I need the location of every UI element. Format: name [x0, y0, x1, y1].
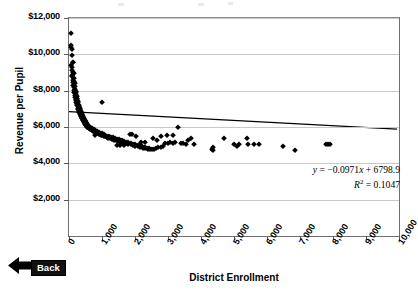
x-axis-tick-label: 2,000 — [132, 222, 152, 246]
x-axis-title: District Enrollment — [68, 272, 400, 283]
x-axis-tick-label: 8,000 — [330, 222, 350, 246]
regression-equation: y = −0.0971x + 6798.9 — [313, 163, 400, 176]
x-axis-tick-label: 10,000 — [396, 218, 418, 247]
back-control[interactable]: Back — [8, 258, 66, 277]
x-axis-tick-labels: 01,0002,0003,0004,0005,0006,0007,0008,00… — [0, 0, 418, 295]
back-button[interactable]: Back — [31, 260, 66, 276]
x-axis-tick-label: 4,000 — [198, 222, 218, 246]
r-squared-value: R2 = 0.1047 — [313, 176, 400, 191]
x-axis-tick-label: 6,000 — [264, 222, 284, 246]
x-axis-tick-label: 5,000 — [231, 222, 251, 246]
x-axis-tick-label: 0 — [66, 237, 77, 247]
regression-annotation: y = −0.0971x + 6798.9 R2 = 0.1047 — [313, 163, 400, 191]
x-axis-tick-label: 1,000 — [99, 222, 119, 246]
x-axis-tick-label: 7,000 — [297, 222, 317, 246]
x-axis-tick-label: 9,000 — [363, 222, 383, 246]
chart-figure: Revenue per Pupil $2,000$4,000$6,000$8,0… — [0, 0, 418, 295]
x-axis-tick-label: 3,000 — [165, 222, 185, 246]
